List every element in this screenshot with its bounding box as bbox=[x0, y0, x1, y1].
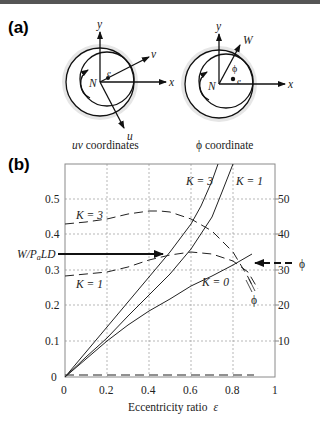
e-label: e bbox=[107, 68, 111, 78]
phi-diagram: y x W N ϕ e ϕ coordinate bbox=[181, 20, 294, 152]
ytick-right: 40 bbox=[278, 228, 290, 240]
top-border bbox=[0, 0, 320, 4]
label-k1-solid: K = 1 bbox=[235, 175, 263, 187]
ytick: 0.3 bbox=[45, 264, 60, 276]
label-k3-solid: K = 3 bbox=[185, 175, 213, 187]
xtick: 0 bbox=[61, 384, 67, 396]
x-axis-ticks: 0 0.2 0.4 0.6 0.8 1 bbox=[61, 384, 278, 396]
y-label: y bbox=[96, 18, 103, 31]
uv-diagram: y x v u N e uv coordinates bbox=[62, 18, 175, 151]
plot-frame bbox=[65, 164, 275, 377]
label-k0-solid: K = 0 bbox=[201, 276, 229, 288]
load-arrow-label: W/PaLD bbox=[17, 248, 56, 262]
panel-b-label: (b) bbox=[8, 155, 30, 174]
phi-caption: ϕ coordinate bbox=[196, 139, 253, 152]
load-curve-k3 bbox=[65, 164, 218, 377]
xtick: 1 bbox=[272, 384, 278, 396]
panel-a-label: (a) bbox=[8, 18, 29, 37]
xtick: 0.8 bbox=[225, 384, 240, 396]
figure-canvas: (a) y x v u N e uv coordinates bbox=[0, 0, 320, 421]
phi-curve-label: ϕ bbox=[251, 294, 257, 307]
label-k3-dashed: K = 3 bbox=[75, 209, 103, 221]
phi-axis-annotation: ϕ ϕ bbox=[246, 258, 305, 307]
n-label: N bbox=[207, 80, 217, 92]
n-label: N bbox=[88, 77, 98, 89]
panel-b: (b) 0.5 0.4 0.3 0.2 0.1 0 bbox=[8, 155, 305, 414]
phi-angle-label: ϕ bbox=[232, 63, 237, 74]
ytick-right: 50 bbox=[278, 193, 290, 205]
xtick: 0.4 bbox=[141, 384, 156, 396]
label-k1-dashed: K = 1 bbox=[75, 278, 103, 290]
uv-caption: uv coordinates bbox=[72, 139, 139, 151]
x-label: x bbox=[168, 76, 175, 88]
w-label: W bbox=[243, 34, 254, 46]
phi-arrow-label: ϕ bbox=[299, 258, 305, 271]
y-label: y bbox=[215, 20, 222, 33]
load-axis-annotation: W/PaLD bbox=[17, 248, 163, 262]
x-axis-label: Eccentricity ratioε bbox=[128, 401, 219, 414]
ytick: 0.5 bbox=[45, 193, 60, 205]
xtick: 0.6 bbox=[183, 384, 198, 396]
ytick: 0 bbox=[51, 371, 57, 383]
right-axis-ticks: 50 40 30 20 10 bbox=[275, 193, 290, 347]
ytick: 0.4 bbox=[45, 228, 60, 240]
grid bbox=[65, 164, 275, 377]
ytick-right: 20 bbox=[278, 299, 290, 311]
ytick: 0.2 bbox=[45, 299, 60, 311]
phi-pointer bbox=[249, 279, 255, 291]
x-label: x bbox=[287, 78, 294, 90]
journal-center-dot bbox=[231, 77, 235, 81]
e-label: e bbox=[237, 76, 241, 86]
xtick: 0.2 bbox=[99, 384, 114, 396]
left-axis-ticks: 0.5 0.4 0.3 0.2 0.1 0 bbox=[45, 193, 60, 383]
ytick: 0.1 bbox=[45, 335, 60, 347]
v-label: v bbox=[151, 48, 157, 60]
phi-pointer bbox=[246, 280, 252, 292]
ytick-right: 30 bbox=[278, 264, 290, 276]
load-curve-k0 bbox=[65, 254, 252, 377]
panel-a: (a) y x v u N e uv coordinates bbox=[8, 18, 294, 152]
ytick-right: 10 bbox=[278, 335, 290, 347]
